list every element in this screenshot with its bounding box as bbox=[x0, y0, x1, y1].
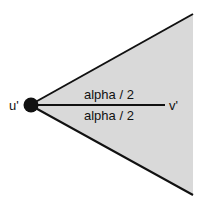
angle-lower-label: alpha / 2 bbox=[84, 108, 134, 123]
cone-diagram: u' v' alpha / 2 alpha / 2 bbox=[0, 0, 204, 209]
angle-upper-label: alpha / 2 bbox=[84, 87, 134, 102]
node-u-label: u' bbox=[9, 98, 19, 113]
node-v-label: v' bbox=[169, 98, 178, 113]
node-u-dot bbox=[24, 98, 39, 113]
